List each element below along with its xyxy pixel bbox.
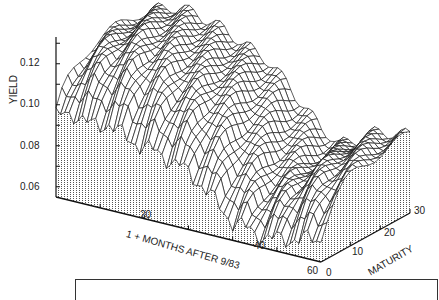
y-tick-label: 0.12 — [20, 57, 39, 68]
maturity-tick-label: 0 — [326, 267, 332, 278]
x-tick-label: 40 — [254, 240, 265, 251]
caption-box — [75, 279, 438, 300]
x-tick-label: 60 — [307, 265, 318, 276]
y-tick-label: 0.08 — [20, 140, 39, 151]
maturity-tick-label: 10 — [352, 246, 363, 257]
y-tick-label: 0.06 — [20, 181, 39, 192]
x-tick-label: 20 — [140, 209, 151, 220]
y-tick-label: 0.10 — [20, 98, 39, 109]
maturity-tick-label: 20 — [384, 227, 395, 238]
y-axis-label: YIELD — [8, 75, 19, 104]
maturity-tick-label: 30 — [414, 205, 425, 216]
